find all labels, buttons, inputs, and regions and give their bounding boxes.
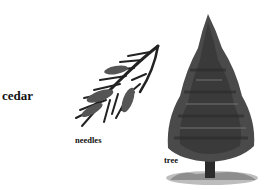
needles-branch-illustration [76, 46, 158, 126]
cedar-tree-illustration [166, 14, 258, 185]
tree-label: tree [164, 155, 178, 165]
needles-label: needles [75, 135, 101, 145]
cedar-illustrations [0, 0, 276, 190]
